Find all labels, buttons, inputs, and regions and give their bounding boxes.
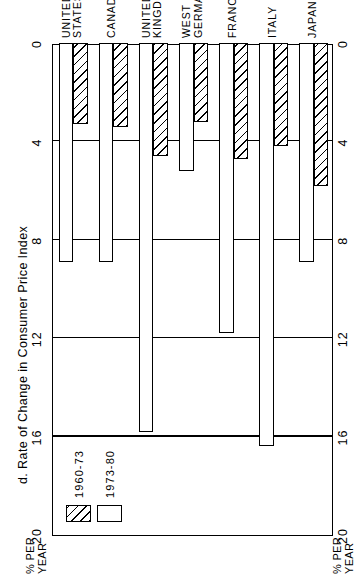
category-label: WESTGERMANY [181,0,204,38]
axis-tick-label: 12 [336,331,350,347]
chart-title: d. Rate of Change in Consumer Price Inde… [16,226,30,484]
gridline [53,239,332,240]
bar-1973-80 [259,43,274,446]
bar-1960-73 [73,43,88,124]
legend-item: 1973-80 [97,450,122,522]
chart-legend: 1960-731973-80 [66,450,122,522]
bar-1973-80 [99,43,114,262]
legend-label: 1960-73 [73,450,85,498]
category-label-line: GERMANY [193,0,205,38]
axis-tick-label: 0 [30,40,44,48]
bar-1973-80 [299,43,314,262]
category-label-line: FRANCE [227,0,239,38]
bar-1960-73 [153,43,168,156]
bar-1973-80 [139,43,154,432]
axis-tick-label: 16 [30,430,44,446]
category-label-line: ITALY [267,0,279,38]
axis-tick-label: 12 [30,331,44,347]
axis-tick-label: 20 [336,528,350,544]
axis-tick-label: 8 [30,237,44,245]
figure-rotation-wrapper: d. Rate of Change in Consumer Price Inde… [0,0,363,576]
axis-ticks-top: 201612840 [30,44,48,536]
bar-1973-80 [59,43,74,262]
bar-1973-80 [219,43,234,333]
gridline [53,435,332,436]
legend-item: 1960-73 [66,450,91,522]
axis-tick-label: 4 [336,138,350,146]
axis-tick-label: 16 [336,430,350,446]
axis-tick-label: 8 [336,237,350,245]
category-label: JAPAN [307,0,319,38]
category-label: CANADA [106,0,118,38]
bar-1960-73 [113,43,128,127]
chart-figure: d. Rate of Change in Consumer Price Inde… [0,0,363,576]
category-label: ITALY [267,0,279,38]
category-label-line: JAPAN [307,0,319,38]
bar-1960-73 [314,43,329,186]
legend-swatch-1973-80 [97,505,122,522]
bar-1960-73 [194,43,209,122]
bar-1960-73 [274,43,289,146]
category-label-line: KINGDOM [152,0,164,38]
axis-tick-label: 20 [30,528,44,544]
legend-swatch-1960-73 [66,505,91,522]
category-label-line: CANADA [106,0,118,38]
axis-tick-label: 0 [336,40,350,48]
gridline [53,337,332,338]
category-label: FRANCE [227,0,239,38]
axis-tick-label: 4 [30,138,44,146]
legend-label: 1973-80 [104,450,116,498]
axis-ticks-bottom: 201612840 [336,44,354,536]
bar-1960-73 [234,43,249,159]
category-label-line: STATES [72,0,84,38]
bar-1973-80 [179,43,194,171]
category-label: UNITEDKINGDOM [141,0,164,38]
category-label: UNITEDSTATES [61,0,84,38]
category-label-line: WEST [181,0,193,38]
